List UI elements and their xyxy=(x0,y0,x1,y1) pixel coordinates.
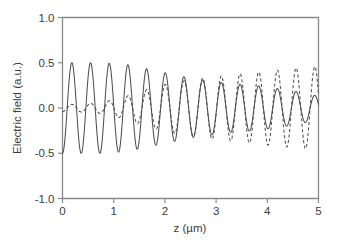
y-axis-title: Electric field (a.u.) xyxy=(11,62,23,154)
x-tick-label-0: 0 xyxy=(59,205,65,217)
y-tick-label-2: 0.0 xyxy=(39,102,55,114)
x-tick-label-3: 3 xyxy=(213,205,219,217)
x-tick-label-2: 2 xyxy=(162,205,168,217)
x-tick-label-4: 4 xyxy=(264,205,271,217)
y-tick-label-1: -0.5 xyxy=(35,147,55,159)
chart-background xyxy=(0,0,338,245)
y-tick-label-4: 1.0 xyxy=(39,12,55,24)
electric-field-chart: 012345 -1.0-0.50.00.51.0 z (µm) Electric… xyxy=(0,0,338,245)
x-tick-label-5: 5 xyxy=(315,205,321,217)
x-axis-title: z (µm) xyxy=(174,222,207,234)
figure-container: 012345 -1.0-0.50.00.51.0 z (µm) Electric… xyxy=(0,0,338,245)
y-tick-label-0: -1.0 xyxy=(35,193,55,205)
y-tick-label-3: 0.5 xyxy=(39,57,55,69)
x-tick-label-1: 1 xyxy=(110,205,116,217)
